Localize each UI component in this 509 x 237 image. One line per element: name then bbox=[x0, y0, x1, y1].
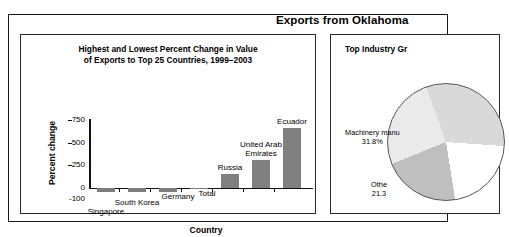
pie-slice-label-machinery: Machinery manu 31.8% bbox=[345, 129, 400, 146]
pie-chart: Machinery manu 31.8% Othe 21.3 bbox=[387, 83, 509, 203]
bar-label-ecuador: Ecuador bbox=[267, 118, 317, 127]
pie-slice-label-other: Othe 21.3 bbox=[371, 181, 387, 198]
x-axis-label: Country bbox=[190, 225, 223, 235]
bar-south-korea bbox=[128, 188, 146, 192]
bar-label-total: Total bbox=[185, 190, 229, 199]
plot-area: 750 500 250 0 -100 bbox=[89, 120, 313, 188]
y-tick-0: 0 bbox=[81, 184, 85, 192]
bar-label-russia: Russia bbox=[203, 164, 257, 173]
x-tick-5 bbox=[243, 188, 244, 192]
y-tick-250: 250 bbox=[72, 161, 85, 169]
bar-chart-title: Highest and Lowest Percent Change in Val… bbox=[21, 44, 315, 65]
y-tick-neg100: -100 bbox=[69, 195, 85, 203]
pie-chart-title: Top Industry Gr bbox=[345, 44, 499, 55]
pie-slice-value-other: 21.3 bbox=[371, 190, 387, 199]
bar-chart-panel: Highest and Lowest Percent Change in Val… bbox=[20, 34, 316, 214]
bar-singapore bbox=[97, 188, 115, 192]
bar-chart-title-line1: Highest and Lowest Percent Change in Val… bbox=[21, 44, 315, 55]
bar-russia bbox=[221, 174, 239, 188]
x-tick-2 bbox=[150, 188, 151, 192]
x-tick-6 bbox=[274, 188, 275, 192]
bar-chart-title-line2: of Exports to Top 25 Countries, 1999–200… bbox=[21, 55, 315, 66]
pie-slice-value-machinery: 31.8% bbox=[345, 138, 400, 147]
y-tick-500: 500 bbox=[72, 139, 85, 147]
pie-graphic bbox=[387, 83, 505, 201]
y-axis-label: Percent change bbox=[47, 121, 57, 185]
page-title: Exports from Oklahoma bbox=[276, 14, 408, 26]
bar-label-united-arab-emirates: United Arab Emirates bbox=[235, 141, 287, 158]
bar-label-singapore: Singapore bbox=[71, 208, 141, 217]
pie-chart-panel: Top Industry Gr Machinery manu 31.8% Oth… bbox=[330, 34, 500, 214]
y-tick-750: 750 bbox=[72, 116, 85, 124]
x-tick-1 bbox=[119, 188, 120, 192]
